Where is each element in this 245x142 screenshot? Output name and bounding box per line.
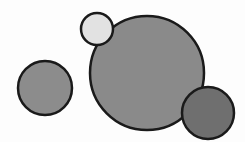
diagram-canvas <box>0 0 245 142</box>
small-light-circle <box>81 13 113 45</box>
circles-diagram <box>0 0 245 142</box>
left-circle <box>18 61 72 115</box>
bottom-right-dark-circle <box>182 87 234 139</box>
